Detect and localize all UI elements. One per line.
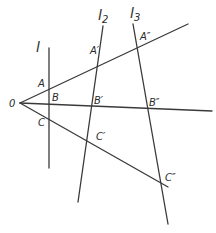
line-l3: [133, 24, 168, 224]
labels-group: ll2l30AA′A″BB′B″CC′C″: [9, 5, 176, 183]
similar-triangles-diagram: ll2l30AA′A″BB′B″CC′C″: [0, 0, 216, 233]
ray-oa: [20, 24, 188, 103]
diagram-canvas: ll2l30AA′A″BB′B″CC′C″: [0, 0, 216, 233]
point-label: B′: [94, 95, 104, 106]
line-l2-label: l2: [98, 7, 108, 25]
line-l3-label: l3: [130, 5, 140, 23]
vertex-o-label: 0: [9, 98, 15, 109]
ray-oc: [20, 103, 168, 187]
point-label: A′: [89, 45, 100, 56]
point-label: C′: [96, 131, 106, 142]
point-label: C″: [165, 172, 176, 183]
point-label: C: [38, 117, 45, 128]
line-l-label: l: [36, 39, 40, 55]
transversals-group: [49, 24, 168, 224]
point-label: A: [37, 78, 45, 89]
point-label: A″: [139, 31, 151, 42]
point-label: B: [52, 92, 59, 103]
point-label: B″: [149, 97, 160, 108]
